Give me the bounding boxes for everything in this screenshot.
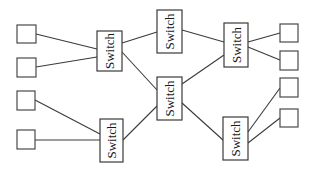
link-s4-s6 (182, 103, 223, 140)
switch-node-s4: Switch (157, 77, 182, 120)
switch-node-s2: Switch (100, 119, 123, 162)
switch-node-s3: Switch (157, 10, 182, 53)
switch-label: Switch (229, 26, 244, 63)
switch-node-s1: Switch (97, 31, 122, 71)
host-node-h6 (280, 51, 298, 70)
host-node-h7 (280, 78, 298, 97)
host-node-h1 (17, 25, 36, 43)
link-s6-h8 (248, 118, 280, 143)
switch-label: Switch (104, 122, 119, 159)
switch-label: Switch (228, 120, 243, 157)
link-s5-h5 (248, 33, 280, 42)
switch-label: Switch (162, 13, 177, 50)
link-s1-s3 (122, 32, 157, 43)
host-node-h2 (17, 58, 36, 77)
switch-node-s6: Switch (223, 117, 248, 160)
link-h1-s1 (36, 34, 97, 49)
link-h2-s1 (36, 57, 97, 67)
network-diagram: SwitchSwitchSwitchSwitchSwitchSwitch (0, 0, 312, 176)
link-s4-s5 (182, 55, 224, 84)
host-node-h4 (17, 130, 35, 149)
switch-label: Switch (102, 32, 117, 69)
switch-label: Switch (162, 80, 177, 117)
link-s1-s4 (122, 52, 157, 90)
host-node-h5 (280, 24, 298, 42)
switch-node-s5: Switch (224, 23, 248, 67)
link-h3-s2 (35, 100, 100, 134)
link-s3-s5 (182, 30, 224, 42)
host-node-h8 (280, 109, 298, 127)
link-s2-s4 (123, 106, 157, 140)
switches-layer: SwitchSwitchSwitchSwitchSwitchSwitch (97, 10, 248, 162)
link-s6-h7 (248, 88, 280, 132)
host-node-h3 (17, 91, 35, 110)
link-s5-h6 (248, 47, 280, 60)
